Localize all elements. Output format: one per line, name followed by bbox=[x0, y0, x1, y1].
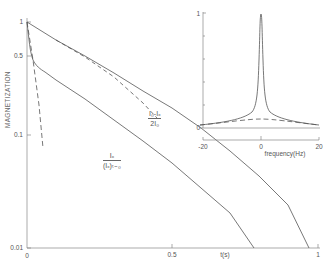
label-lower-curve: Iₓ (Iₓ)ₜ₌₀ bbox=[103, 152, 121, 169]
main-curves bbox=[27, 22, 309, 248]
label-upper-denominator: 2I₀ bbox=[148, 119, 161, 127]
svg-text:0: 0 bbox=[25, 252, 29, 259]
svg-text:0: 0 bbox=[259, 143, 263, 150]
curve-upper-solid bbox=[27, 22, 309, 248]
svg-text:-20: -20 bbox=[198, 143, 208, 150]
curve-slow-dashed bbox=[56, 40, 157, 118]
label-lower-denominator: (Iₓ)ₜ₌₀ bbox=[103, 161, 121, 169]
chart-canvas: 1 0.5 0.1 0.01 0 0.5 1 t(s) 1 0 -20 0 20… bbox=[0, 0, 332, 266]
svg-text:frequency(Hz): frequency(Hz) bbox=[265, 150, 306, 158]
svg-text:0: 0 bbox=[196, 124, 200, 131]
svg-text:20: 20 bbox=[315, 143, 323, 150]
label-upper-curve: I₀-Iₓ 2I₀ bbox=[148, 110, 161, 127]
y-axis-label: MAGNETIZATION bbox=[4, 71, 11, 128]
svg-text:1: 1 bbox=[196, 10, 200, 17]
label-lower-numerator: Iₓ bbox=[103, 152, 121, 161]
svg-text:0.01: 0.01 bbox=[10, 244, 23, 251]
svg-text:0.5: 0.5 bbox=[14, 52, 23, 59]
label-upper-numerator: I₀-Iₓ bbox=[148, 110, 161, 119]
svg-text:1: 1 bbox=[19, 18, 23, 25]
svg-text:t(s): t(s) bbox=[220, 251, 229, 259]
svg-text:0.5: 0.5 bbox=[167, 251, 176, 258]
inset-spectrum-solid bbox=[200, 14, 319, 125]
svg-text:1: 1 bbox=[316, 251, 320, 258]
curve-lower-solid bbox=[27, 22, 254, 248]
main-tick-labels: 1 0.5 0.1 0.01 0 0.5 1 t(s) bbox=[10, 18, 320, 259]
svg-text:0.1: 0.1 bbox=[14, 131, 23, 138]
main-axes bbox=[27, 18, 320, 248]
inset-curves bbox=[200, 14, 319, 125]
inset-broad-dashed bbox=[200, 119, 319, 125]
